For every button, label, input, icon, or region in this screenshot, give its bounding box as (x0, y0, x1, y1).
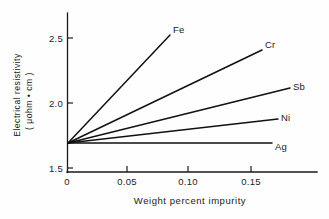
x-tick-label-0.15: 0.15 (241, 176, 261, 187)
series-label-cr: Cr (265, 39, 275, 50)
y-axis-title-line1: Electrical resistivity (12, 53, 22, 137)
chart-figure: 2.5 2.0 1.5 0 0.05 0.10 0.15 Fe Cr Sb Ni… (0, 0, 329, 219)
x-tick-label-0.10: 0.10 (178, 176, 198, 187)
y-axis-title-line2: ( μohm • cm ) (24, 72, 34, 130)
series-label-sb: Sb (293, 81, 305, 92)
resistivity-line-chart: 2.5 2.0 1.5 0 0.05 0.10 0.15 Fe Cr Sb Ni… (0, 0, 329, 219)
y-tick-label-2.5: 2.5 (49, 33, 63, 44)
series-label-ag: Ag (275, 141, 287, 152)
x-tick-label-0.05: 0.05 (117, 176, 137, 187)
y-tick-label-1.5: 1.5 (49, 163, 63, 174)
y-tick-label-2.0: 2.0 (49, 98, 63, 109)
x-axis-title: Weight percent impurity (134, 195, 246, 206)
x-tick-label-0: 0 (64, 176, 70, 187)
series-label-ni: Ni (281, 112, 290, 123)
series-label-fe: Fe (173, 24, 185, 35)
